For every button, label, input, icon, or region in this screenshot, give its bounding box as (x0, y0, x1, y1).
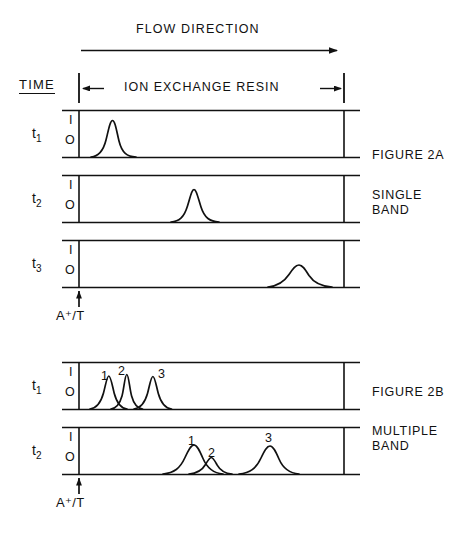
row-time-label-2a-t3: t3 (32, 255, 41, 274)
peak-number-2b-t1-1: 1 (101, 369, 109, 383)
scale-top-2a-t1: I (69, 113, 73, 127)
elution-peak-3 (239, 446, 299, 474)
row-time-sub: 2 (36, 198, 42, 209)
time-axis-label: TIME (19, 77, 55, 94)
peak-number-2b-t2-3: 3 (265, 431, 273, 445)
caption-mode-2b-line1: MULTIPLE (372, 424, 438, 439)
scale-top-2b-t1: I (69, 365, 73, 379)
scale-bottom-2a-t3: O (65, 263, 75, 277)
figure-container: FLOW DIRECTION TIME ION EXCHANGE RESIN t… (0, 0, 471, 541)
injection-label-a-text: A⁺/T (56, 308, 84, 323)
elution-peak-2 (111, 375, 143, 410)
scale-bottom-2b-t1: O (65, 385, 75, 399)
panel-2a-t2 (62, 176, 360, 223)
row-time-sub: 1 (36, 385, 42, 396)
scale-top-2a-t3: I (69, 243, 73, 257)
column-label: ION EXCHANGE RESIN (124, 80, 280, 94)
caption-figure-2b: FIGURE 2B (372, 385, 444, 400)
scale-bottom-2a-t1: O (65, 133, 75, 147)
injection-label-a: A⁺/T (56, 308, 84, 323)
flow-direction-label: FLOW DIRECTION (136, 22, 260, 36)
row-time-sub: 1 (36, 133, 42, 144)
row-time-sub: 3 (36, 263, 42, 274)
row-time-label-2b-t2: t2 (32, 442, 41, 461)
scale-top-2b-t2: I (69, 430, 73, 444)
caption-mode-2b-line2: BAND (372, 439, 410, 454)
panel-2a-t1 (62, 111, 360, 158)
elution-peak (171, 190, 219, 223)
peak-number-2b-t1-2: 2 (118, 364, 126, 378)
peak-number-2b-t2-2: 2 (208, 446, 216, 460)
caption-mode-2a-line1: SINGLE (372, 188, 422, 203)
row-time-label-2a-t1: t1 (32, 125, 41, 144)
row-time-label-2a-t2: t2 (32, 190, 41, 209)
caption-mode-2a-line2: BAND (372, 203, 410, 218)
elution-peak (91, 121, 136, 158)
row-time-sub: 2 (36, 450, 42, 461)
scale-top-2a-t2: I (69, 178, 73, 192)
scale-bottom-2b-t2: O (65, 450, 75, 464)
injection-label-b: A⁺/T (56, 495, 84, 510)
elution-peak (268, 265, 332, 287)
panel-2a-t3 (62, 241, 360, 288)
elution-peak-3 (134, 377, 172, 410)
peak-number-2b-t2-1: 1 (188, 434, 196, 448)
caption-figure-2a: FIGURE 2A (372, 148, 444, 163)
peak-number-2b-t1-3: 3 (158, 367, 166, 381)
scale-bottom-2a-t2: O (65, 198, 75, 212)
row-time-label-2b-t1: t1 (32, 377, 41, 396)
injection-label-b-text: A⁺/T (56, 495, 84, 510)
